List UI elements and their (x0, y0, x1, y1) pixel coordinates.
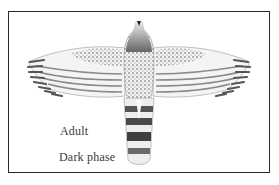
phase-label: Dark phase (59, 150, 115, 165)
hawk-tail (124, 98, 154, 165)
hawk-illustration (0, 0, 279, 185)
hawk-body (124, 21, 154, 100)
age-label: Adult (60, 124, 88, 139)
left-wing (28, 47, 125, 97)
right-wing (153, 47, 250, 97)
